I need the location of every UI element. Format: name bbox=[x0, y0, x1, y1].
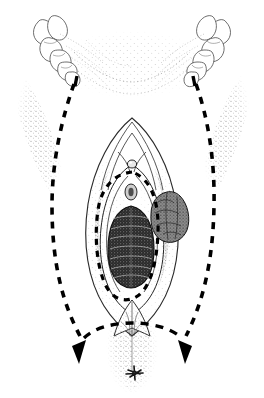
illustration-canvas bbox=[0, 0, 264, 398]
mons-pubis bbox=[52, 30, 212, 100]
vaginal-introitus bbox=[108, 206, 154, 288]
urethral-meatus bbox=[125, 184, 137, 200]
anatomical-figure bbox=[0, 0, 264, 398]
clitoris bbox=[127, 160, 136, 168]
